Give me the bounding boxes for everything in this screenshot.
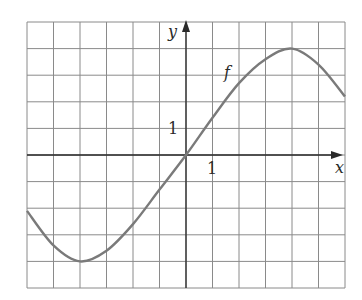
y-tick-label: 1 [168,119,178,138]
y-axis-label: y [167,22,178,41]
x-tick-label: 1 [207,159,217,178]
graph: x y 1 1 f [0,0,362,300]
curve-label: f [223,63,233,82]
x-axis-label: x [335,158,344,177]
